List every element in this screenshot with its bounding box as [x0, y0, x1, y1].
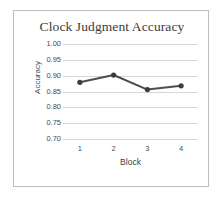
x-axis-tick-label: 2 — [102, 144, 126, 153]
x-axis-tick-labels: 1234 — [63, 144, 198, 155]
y-axis-tick-label: 1.00 — [25, 40, 61, 48]
x-axis-tick-label: 4 — [169, 144, 193, 153]
y-axis-tick-label: 0.70 — [25, 135, 61, 143]
x-axis-title: Block — [63, 157, 198, 167]
y-axis-tick-labels: 1.000.950.900.850.800.750.70 — [20, 44, 61, 139]
y-axis-tick-label: 0.80 — [25, 103, 61, 111]
chart-title: Clock Judgment Accuracy — [14, 19, 210, 34]
series-line — [80, 75, 181, 90]
x-axis-tick-label: 1 — [68, 144, 92, 153]
line-series — [63, 44, 198, 139]
y-axis-tick-label: 0.90 — [25, 72, 61, 80]
chart-frame: Clock Judgment Accuracy Accuracy 1.000.9… — [13, 10, 209, 187]
chart-figure: Clock Judgment Accuracy Accuracy 1.000.9… — [0, 0, 222, 199]
y-axis-tick-label: 0.75 — [25, 119, 61, 127]
data-point-marker — [77, 80, 82, 85]
gridline — [63, 139, 198, 140]
data-point-marker — [179, 83, 184, 88]
x-axis-tick-label: 3 — [135, 144, 159, 153]
data-point-marker — [111, 72, 116, 77]
plot-area — [63, 44, 198, 139]
y-axis-tick-label: 0.95 — [25, 56, 61, 64]
y-axis-tick-label: 0.85 — [25, 88, 61, 96]
data-point-marker — [145, 87, 150, 92]
